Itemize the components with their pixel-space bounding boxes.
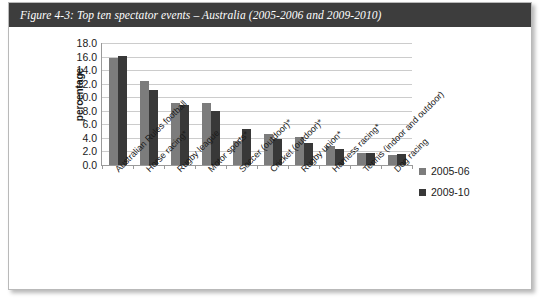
y-tick-label: 12.0 <box>77 78 97 90</box>
chart-area: percentage 18.016.014.012.010.08.06.04.0… <box>9 27 531 289</box>
y-axis-tick-labels: 18.016.014.012.010.08.06.04.02.00.0 <box>67 43 97 165</box>
legend: 2005-062009-10 <box>419 165 470 207</box>
bar-group <box>102 43 133 165</box>
y-tick-label: 6.0 <box>82 118 97 130</box>
y-tick-label: 0.0 <box>82 159 97 171</box>
legend-swatch <box>419 189 426 196</box>
y-tick-label: 14.0 <box>77 64 97 76</box>
y-tick-label: 4.0 <box>82 132 97 144</box>
y-tick-label: 2.0 <box>82 145 97 157</box>
bar <box>118 56 127 165</box>
bar <box>109 58 118 165</box>
legend-swatch <box>419 168 426 175</box>
y-tick-label: 8.0 <box>82 105 97 117</box>
figure-caption: Figure 4-3: Top ten spectator events – A… <box>9 3 531 27</box>
y-tick-label: 10.0 <box>77 91 97 103</box>
legend-item[interactable]: 2005-06 <box>419 165 470 177</box>
legend-item[interactable]: 2009-10 <box>419 186 470 198</box>
legend-label: 2009-10 <box>431 186 470 198</box>
y-tick-label: 16.0 <box>77 51 97 63</box>
x-tick <box>412 165 413 169</box>
y-tick-label: 18.0 <box>77 37 97 49</box>
x-axis-category-labels: Australian Rules footballHorse racing*Ru… <box>101 167 411 285</box>
figure-card: Figure 4-3: Top ten spectator events – A… <box>8 2 532 290</box>
legend-label: 2005-06 <box>431 165 470 177</box>
